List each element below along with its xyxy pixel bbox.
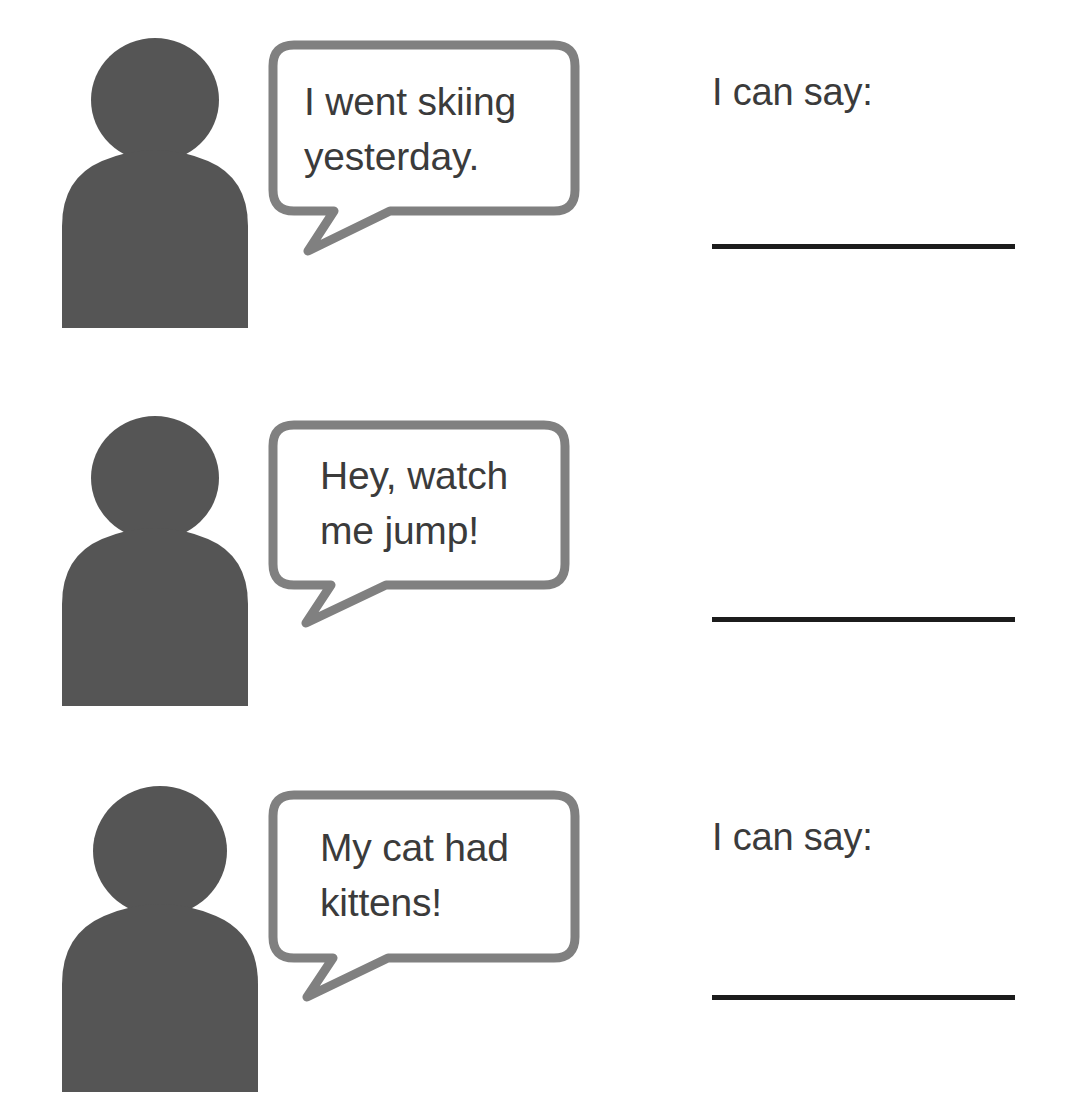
answer-write-line[interactable] [712,244,1015,249]
answer-prompt: I can say: [712,70,1016,116]
worksheet-row: I went skiing yesterday. I can say: [0,0,1077,372]
person-silhouette-icon [62,38,248,328]
speech-bubble: My cat had kittens! [268,790,580,1002]
worksheet-row: Hey, watch me jump! I can say: [0,372,1077,744]
speech-bubble: I went skiing yesterday. [268,40,580,256]
answer-label: I can say: [712,70,1016,116]
speech-bubble-text: Hey, watch me jump! [268,420,570,559]
speech-bubble-text: I went skiing yesterday. [268,40,580,185]
answer-write-line[interactable] [712,617,1015,622]
speech-bubble: Hey, watch me jump! [268,420,570,628]
worksheet-row: My cat had kittens! I can say: [0,744,1077,1116]
answer-write-line[interactable] [712,995,1015,1000]
person-silhouette-icon [62,416,248,706]
worksheet-page: I went skiing yesterday. I can say: Hey,… [0,0,1077,1116]
speech-bubble-text: My cat had kittens! [268,790,580,931]
person-silhouette-icon [62,786,258,1092]
